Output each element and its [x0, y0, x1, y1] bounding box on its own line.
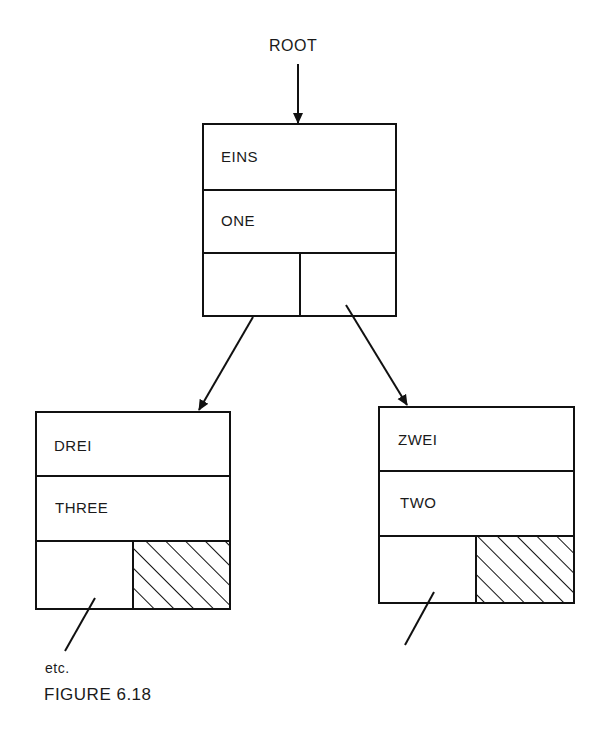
edge-root-to-left	[199, 317, 253, 410]
left-continuation-pointer	[65, 598, 95, 651]
node-root-key: EINS	[221, 148, 258, 165]
node-left-value: THREE	[55, 499, 108, 516]
node-left-key: DREI	[54, 437, 92, 454]
continuation-label: etc.	[45, 660, 70, 676]
right-continuation-pointer	[405, 592, 434, 645]
edge-root-to-right	[346, 305, 407, 405]
node-right-key: ZWEI	[398, 431, 438, 448]
root-label: ROOT	[269, 37, 317, 55]
node-right-value: TWO	[400, 494, 437, 511]
figure-caption: FIGURE 6.18	[44, 685, 152, 705]
tree-diagram	[0, 0, 605, 735]
node-root-value: ONE	[221, 212, 255, 229]
